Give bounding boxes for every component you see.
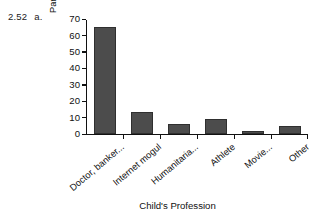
bar xyxy=(168,124,190,134)
y-tick-label: 40 xyxy=(60,61,80,74)
y-tick-label: 70 xyxy=(60,12,80,25)
bar-chart: Parent's Preference (%) 010203040506070 … xyxy=(0,0,319,224)
y-tick-mark xyxy=(82,117,86,118)
y-tick-label: 30 xyxy=(60,78,80,91)
bar xyxy=(131,112,153,133)
y-tick-label: 50 xyxy=(60,45,80,58)
y-axis-title: Parent's Preference (%) xyxy=(46,0,60,30)
y-tick-mark xyxy=(82,134,86,135)
y-tick-mark xyxy=(82,84,86,85)
y-tick-label: 20 xyxy=(60,94,80,107)
y-tick-label: 10 xyxy=(60,111,80,124)
bar xyxy=(205,119,227,134)
y-tick-mark xyxy=(82,19,86,20)
y-tick-mark xyxy=(82,51,86,52)
y-tick-mark xyxy=(82,101,86,102)
y-tick-mark xyxy=(82,68,86,69)
x-tick-mark xyxy=(197,135,198,139)
y-tick-label: 0 xyxy=(60,127,80,140)
x-tick-mark xyxy=(234,135,235,139)
x-axis-title: Child's Profession xyxy=(139,200,215,211)
y-axis-line xyxy=(86,20,87,135)
x-tick-mark xyxy=(123,135,124,139)
x-tick-mark xyxy=(307,135,308,139)
x-tick-mark xyxy=(160,135,161,139)
plot-area: 010203040506070 xyxy=(86,20,308,135)
bar xyxy=(242,131,264,133)
x-axis-title-wrapper: Child's Profession xyxy=(0,200,319,211)
y-tick-mark xyxy=(82,35,86,36)
bar xyxy=(279,126,301,133)
x-tick-mark xyxy=(271,135,272,139)
bar xyxy=(94,27,116,134)
y-tick-label: 60 xyxy=(60,29,80,42)
